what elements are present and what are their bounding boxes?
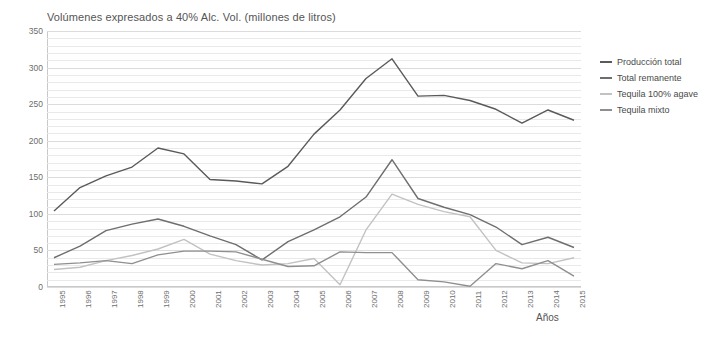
y-tick-label: 50 <box>17 245 43 255</box>
legend-item-label: Tequila mixto <box>617 105 670 115</box>
chart-container: Volúmenes expresados a 40% Alc. Vol. (mi… <box>0 0 725 338</box>
x-tick-label: 2014 <box>552 290 561 308</box>
x-tick-label: 2007 <box>370 290 379 308</box>
series-line <box>54 251 574 286</box>
legend-swatch-icon <box>600 93 612 95</box>
series-line <box>54 59 574 211</box>
chart-title: Volúmenes expresados a 40% Alc. Vol. (mi… <box>47 11 336 23</box>
legend-item[interactable]: Tequila mixto <box>600 103 698 117</box>
legend-swatch-icon <box>600 77 612 79</box>
x-tick-label: 2010 <box>448 290 457 308</box>
plot-area: 050100150200250300350 199519961997199819… <box>47 31 581 287</box>
legend-swatch-icon <box>600 109 612 111</box>
legend-item-label: Producción total <box>617 57 682 67</box>
x-tick-label: 2013 <box>526 290 535 308</box>
x-tick-label: 2011 <box>474 291 483 308</box>
x-tick-label: 2000 <box>188 290 197 308</box>
x-tick-label: 2006 <box>344 290 353 308</box>
x-tick-label: 1995 <box>58 290 67 308</box>
y-tick-label: 150 <box>17 172 43 182</box>
x-tick-label: 2003 <box>266 290 275 308</box>
x-tick-label: 2002 <box>240 290 249 308</box>
legend-item[interactable]: Producción total <box>600 55 698 69</box>
y-tick-label: 350 <box>17 26 43 36</box>
y-tick-label: 300 <box>17 63 43 73</box>
legend-item[interactable]: Total remanente <box>600 71 698 85</box>
legend-item-label: Total remanente <box>617 73 682 83</box>
series-line <box>54 194 574 285</box>
x-tick-label: 2012 <box>500 290 509 308</box>
y-tick-label: 200 <box>17 136 43 146</box>
legend-item-label: Tequila 100% agave <box>617 89 698 99</box>
x-tick-label: 2008 <box>396 290 405 308</box>
y-tick-label: 0 <box>17 282 43 292</box>
series-line <box>54 160 574 260</box>
legend-item[interactable]: Tequila 100% agave <box>600 87 698 101</box>
series-lines <box>47 31 581 287</box>
chart-legend: Producción totalTotal remanenteTequila 1… <box>600 55 698 119</box>
legend-swatch-icon <box>600 61 612 63</box>
x-tick-label: 1996 <box>84 290 93 308</box>
x-tick-label: 2001 <box>214 290 223 308</box>
x-tick-label: 2009 <box>422 290 431 308</box>
y-tick-label: 100 <box>17 209 43 219</box>
x-tick-label: 2005 <box>318 290 327 308</box>
x-tick-label: 1997 <box>110 290 119 308</box>
x-axis-label: Años <box>536 312 559 323</box>
x-tick-label: 2004 <box>292 290 301 308</box>
x-tick-label: 1998 <box>136 290 145 308</box>
y-tick-label: 250 <box>17 99 43 109</box>
x-tick-label: 1999 <box>162 290 171 308</box>
gridline <box>47 287 581 288</box>
x-tick-label: 2015 <box>578 290 587 308</box>
